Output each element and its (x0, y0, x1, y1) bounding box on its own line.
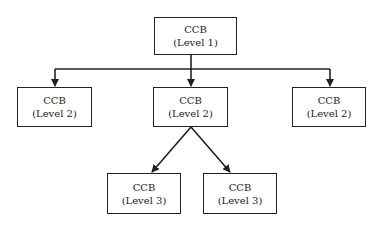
ccb-level2-left-box: CCB (Level 2) (17, 87, 92, 127)
node-title: CCB (133, 181, 156, 194)
ccb-level3-right-box: CCB (Level 3) (203, 173, 277, 214)
node-subtitle: (Level 1) (173, 36, 218, 49)
node-title: CCB (43, 94, 66, 107)
arrow-to-level3-left (152, 127, 191, 172)
node-title: CCB (179, 94, 202, 107)
node-title: CCB (229, 181, 252, 194)
node-subtitle: (Level 2) (32, 107, 77, 120)
ccb-level3-left-box: CCB (Level 3) (107, 173, 181, 214)
node-subtitle: (Level 2) (168, 107, 213, 120)
node-subtitle: (Level 2) (307, 107, 352, 120)
node-title: CCB (184, 23, 207, 36)
ccb-level2-right-box: CCB (Level 2) (292, 87, 366, 127)
ccb-level2-center-box: CCB (Level 2) (153, 87, 228, 127)
arrow-to-level3-right (191, 127, 230, 172)
node-title: CCB (318, 94, 341, 107)
node-subtitle: (Level 3) (122, 194, 167, 207)
ccb-level1-box: CCB (Level 1) (154, 17, 237, 55)
node-subtitle: (Level 3) (218, 194, 263, 207)
